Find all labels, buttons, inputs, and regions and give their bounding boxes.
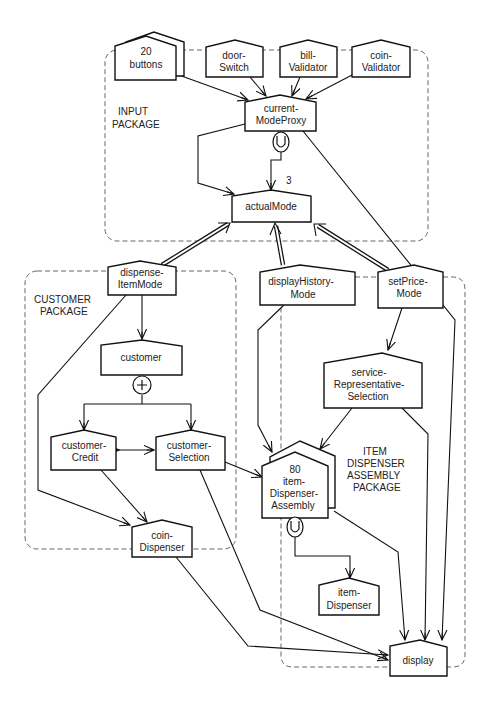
ida-package-label-2: DISPENSER xyxy=(347,458,405,469)
node-door-switch[interactable]: door- Switch xyxy=(206,40,263,77)
node-ida-label-3: Dispenser- xyxy=(270,488,318,499)
node-ida-label-4: Assembly xyxy=(271,500,314,511)
node-set-price-mode[interactable]: setPrice- Mode xyxy=(378,265,443,308)
ida-package-label-1: ITEM xyxy=(363,446,387,457)
node-customer-credit-label-1: customer- xyxy=(62,440,106,451)
input-package-label-2: PACKAGE xyxy=(112,119,160,130)
node-customer-credit[interactable]: customer- Credit xyxy=(51,430,116,470)
node-set-price-mode-label-2: Mode xyxy=(396,288,421,299)
node-service-rep-label-3: Selection xyxy=(347,391,388,402)
node-dispense-item-mode-label-2: ItemMode xyxy=(118,279,163,290)
node-bill-validator-label-1: bill- xyxy=(300,50,316,61)
node-display-label: display xyxy=(402,655,433,666)
ida-package-label-3: ASSEMBLY xyxy=(347,470,400,481)
node-customer-selection-label-1: customer- xyxy=(167,440,211,451)
node-ida-label-2: item- xyxy=(283,476,305,487)
node-current-mode-proxy[interactable]: current- ModeProxy xyxy=(245,95,316,131)
node-coin-validator-label-2: Validator xyxy=(362,62,401,73)
node-bill-validator[interactable]: bill- Validator xyxy=(280,40,337,77)
customer-package: CUSTOMER PACKAGE xyxy=(25,271,236,549)
node-20-buttons-label-2: buttons xyxy=(130,59,163,70)
node-customer[interactable]: customer xyxy=(101,340,182,375)
node-display-history-mode-label-1: displayHistory- xyxy=(268,276,334,287)
node-customer-credit-label-2: Credit xyxy=(72,452,99,463)
node-set-price-mode-label-1: setPrice- xyxy=(388,276,427,287)
node-door-switch-label-2: Switch xyxy=(219,62,248,73)
node-bill-validator-label-2: Validator xyxy=(289,62,328,73)
customer-package-label-1: CUSTOMER xyxy=(34,294,91,305)
node-display[interactable]: display xyxy=(390,640,447,676)
node-coin-dispenser-label-2: Dispenser xyxy=(139,542,185,553)
node-door-switch-label-1: door- xyxy=(222,50,245,61)
node-coin-validator[interactable]: coin- Validator xyxy=(352,40,410,77)
node-service-rep-label-1: service- xyxy=(351,367,386,378)
node-service-representative-selection[interactable]: service- Representative- Selection xyxy=(324,353,422,408)
node-display-history-mode[interactable]: displayHistory- Mode xyxy=(260,265,355,305)
node-coin-dispenser-label-1: coin- xyxy=(151,530,173,541)
input-package-label-1: INPUT xyxy=(118,106,148,117)
union-symbol-bottom xyxy=(287,517,303,537)
node-coin-dispenser[interactable]: coin- Dispenser xyxy=(132,520,192,557)
node-service-rep-label-2: Representative- xyxy=(334,379,405,390)
node-item-dispenser[interactable]: item- Dispenser xyxy=(319,578,379,615)
union-symbol-top xyxy=(273,132,289,152)
node-item-dispenser-label-2: Dispenser xyxy=(326,600,372,611)
node-current-mode-proxy-label-1: current- xyxy=(264,103,298,114)
node-actual-mode[interactable]: actualMode xyxy=(232,190,311,222)
ida-package-label-4: PACKAGE xyxy=(353,482,401,493)
node-item-dispenser-assembly[interactable]: 80 item- Dispenser- Assembly xyxy=(262,441,335,518)
node-customer-selection-label-2: Selection xyxy=(168,452,209,463)
node-20-buttons-label-1: 20 xyxy=(140,46,152,57)
multiplicity-3: 3 xyxy=(286,175,292,186)
node-coin-validator-label-1: coin- xyxy=(370,50,392,61)
node-display-history-mode-label-2: Mode xyxy=(290,289,315,300)
plus-symbol xyxy=(133,376,151,394)
architecture-diagram: INPUT PACKAGE CUSTOMER PACKAGE ITEM DISP… xyxy=(0,0,488,707)
node-customer-label: customer xyxy=(120,352,162,363)
customer-package-label-2: PACKAGE xyxy=(40,306,88,317)
node-current-mode-proxy-label-2: ModeProxy xyxy=(256,115,307,126)
node-actual-mode-label: actualMode xyxy=(245,201,297,212)
node-ida-label-1: 80 xyxy=(289,464,301,475)
node-item-dispenser-label-1: item- xyxy=(338,587,360,598)
node-20-buttons[interactable]: 20 buttons xyxy=(115,32,184,80)
node-customer-selection[interactable]: customer- Selection xyxy=(156,430,225,470)
node-dispense-item-mode[interactable]: dispense- ItemMode xyxy=(108,261,176,295)
node-dispense-item-mode-label-1: dispense- xyxy=(120,267,163,278)
